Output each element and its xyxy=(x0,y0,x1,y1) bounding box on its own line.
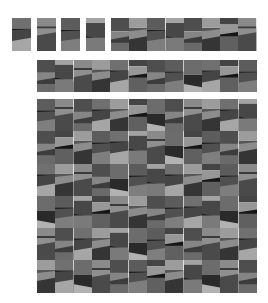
patch-tile xyxy=(239,99,257,131)
patch-tile xyxy=(129,164,147,196)
patch-tile xyxy=(92,228,110,260)
patch-tile xyxy=(110,228,128,260)
patch-tile xyxy=(74,260,92,292)
patch-tile xyxy=(37,196,55,228)
patch-tile xyxy=(202,196,220,228)
patch-tile xyxy=(55,228,73,260)
patch-tile xyxy=(184,260,202,292)
patch-tile xyxy=(202,99,220,131)
patch-tile xyxy=(86,18,105,51)
patch-tile xyxy=(165,131,183,163)
patch-tile xyxy=(239,228,257,260)
patch-tile xyxy=(239,196,257,228)
patch-tile xyxy=(202,164,220,196)
patch-tile xyxy=(110,60,128,92)
patch-tile xyxy=(220,260,238,292)
strip-12 xyxy=(37,60,257,92)
patch-tile xyxy=(220,131,238,163)
patch-tile xyxy=(74,228,92,260)
patch-tile xyxy=(37,164,55,196)
single-tile-3 xyxy=(61,18,80,51)
patch-row xyxy=(37,131,257,163)
patch-tile xyxy=(184,228,202,260)
patch-tile xyxy=(55,60,73,92)
single-tile-2 xyxy=(37,18,56,51)
patch-tile xyxy=(239,260,257,292)
patch-tile xyxy=(147,99,165,131)
patch-tile xyxy=(220,228,238,260)
patch-tile xyxy=(147,18,165,51)
patch-tile xyxy=(37,131,55,163)
patch-tile xyxy=(165,164,183,196)
patch-tile xyxy=(129,99,147,131)
patch-tile xyxy=(129,228,147,260)
patch-tile xyxy=(165,60,183,92)
patch-tile xyxy=(12,18,31,51)
patch-tile xyxy=(202,260,220,292)
patch-tile xyxy=(238,18,256,51)
patch-tile xyxy=(129,18,147,51)
patch-tile xyxy=(147,131,165,163)
strip-8 xyxy=(111,18,257,51)
patch-tile xyxy=(129,60,147,92)
single-tile-1 xyxy=(12,18,31,51)
patch-tile xyxy=(184,99,202,131)
patch-tile xyxy=(147,260,165,292)
patch-tile xyxy=(37,60,55,92)
patch-tile xyxy=(37,99,55,131)
patch-tile xyxy=(147,60,165,92)
patch-tile xyxy=(165,228,183,260)
patch-tile xyxy=(184,164,202,196)
patch-tile xyxy=(110,260,128,292)
patch-tile xyxy=(239,131,257,163)
patch-row xyxy=(37,228,257,260)
patch-tile xyxy=(92,260,110,292)
single-tile-4 xyxy=(86,18,105,51)
patch-tile xyxy=(92,131,110,163)
patch-tile xyxy=(202,228,220,260)
patch-tile xyxy=(184,131,202,163)
patch-tile xyxy=(74,131,92,163)
patch-tile xyxy=(110,131,128,163)
patch-tile xyxy=(74,60,92,92)
patch-tile xyxy=(55,260,73,292)
patch-tile xyxy=(165,99,183,131)
patch-tile xyxy=(55,131,73,163)
patch-row xyxy=(37,260,257,292)
patch-tile xyxy=(92,196,110,228)
patch-row xyxy=(37,60,257,92)
patch-tile xyxy=(165,260,183,292)
patch-tile xyxy=(129,260,147,292)
patch-tile xyxy=(55,164,73,196)
patch-tile xyxy=(37,260,55,292)
patch-tile xyxy=(111,18,129,51)
patch-tile xyxy=(202,18,220,51)
patch-tile xyxy=(129,131,147,163)
patch-tile xyxy=(74,99,92,131)
patch-row xyxy=(12,18,31,51)
patch-tile xyxy=(239,164,257,196)
patch-row xyxy=(37,164,257,196)
patch-row xyxy=(37,196,257,228)
patch-tile xyxy=(92,164,110,196)
patch-row xyxy=(61,18,80,51)
patch-tile xyxy=(147,164,165,196)
patch-tile xyxy=(129,196,147,228)
patch-tile xyxy=(110,196,128,228)
patch-tile xyxy=(165,196,183,228)
patch-tile xyxy=(92,60,110,92)
patch-tile xyxy=(184,60,202,92)
patch-tile xyxy=(202,131,220,163)
patch-row xyxy=(37,99,257,131)
patch-tile xyxy=(184,196,202,228)
patch-tile xyxy=(37,18,56,51)
patch-tile xyxy=(74,164,92,196)
patch-tile xyxy=(202,60,220,92)
patch-row xyxy=(37,18,56,51)
patch-tile xyxy=(37,228,55,260)
patch-tile xyxy=(110,99,128,131)
patch-tile xyxy=(110,164,128,196)
patch-tile xyxy=(220,99,238,131)
patch-tile xyxy=(55,99,73,131)
patch-tile xyxy=(220,196,238,228)
